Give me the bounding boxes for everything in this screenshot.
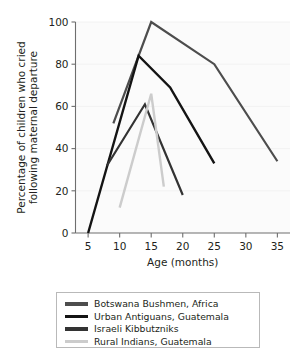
x-tick-label: 35 xyxy=(271,240,284,252)
x-tick-label: 5 xyxy=(85,240,92,252)
legend-swatch-icon xyxy=(65,315,88,319)
x-axis-title: Age (months) xyxy=(147,256,218,268)
x-tick-label: 30 xyxy=(239,240,252,252)
y-tick-label: 80 xyxy=(55,58,68,70)
y-tick-label: 60 xyxy=(55,100,68,112)
legend-swatch-icon xyxy=(65,340,88,344)
x-tick-label: 25 xyxy=(208,240,221,252)
legend-item-label: Botswana Bushmen, Africa xyxy=(94,298,219,309)
y-tick-label: 40 xyxy=(55,142,68,154)
y-tick-label: 20 xyxy=(55,185,68,197)
x-tick-label: 15 xyxy=(145,240,158,252)
plot-background xyxy=(76,22,291,233)
x-tick-label: 10 xyxy=(113,240,126,252)
legend-item-label: Rural Indians, Guatemala xyxy=(94,336,212,347)
legend-item-label: Urban Antiguans, Guatemala xyxy=(94,311,229,322)
y-tick-label: 0 xyxy=(62,227,69,239)
figure: 0204060801005101520253035Age (months)Per… xyxy=(0,0,299,353)
legend-item-label: Israeli Kibbutzniks xyxy=(94,323,179,334)
x-tick-label: 20 xyxy=(176,240,189,252)
legend-item[interactable]: Botswana Bushmen, Africa xyxy=(65,298,253,310)
legend-swatch-icon xyxy=(65,302,88,306)
legend-item[interactable]: Israeli Kibbutzniks xyxy=(65,323,253,335)
legend-item[interactable]: Urban Antiguans, Guatemala xyxy=(65,311,253,323)
y-axis-title: Percentage of children who cried xyxy=(15,41,27,213)
legend-item[interactable]: Rural Indians, Guatemala xyxy=(65,336,253,348)
line-chart: 0204060801005101520253035Age (months)Per… xyxy=(0,0,299,282)
legend-swatch-icon xyxy=(65,327,88,331)
plot-area: 0204060801005101520253035Age (months)Per… xyxy=(0,0,299,282)
chart-legend: Botswana Bushmen, AfricaUrban Antiguans,… xyxy=(56,292,260,348)
y-axis-title: following maternal departure xyxy=(27,51,39,204)
y-tick-label: 100 xyxy=(48,16,68,28)
